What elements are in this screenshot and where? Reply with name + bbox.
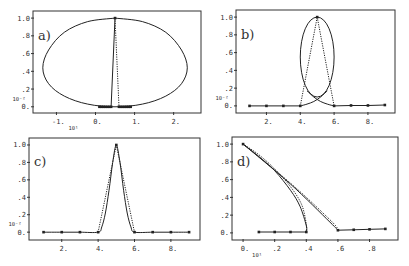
y-tick-label: .2 <box>18 211 26 219</box>
x-tick-label: 6. <box>332 118 340 126</box>
data-point-marker <box>350 104 353 107</box>
y-tick-label: .6 <box>18 176 26 184</box>
branch-dotted <box>243 144 307 232</box>
y-tick-label: .8 <box>225 31 233 39</box>
data-point-marker <box>115 144 118 147</box>
x-tick-label: 8. <box>169 245 177 253</box>
x-tick-label: 0. <box>93 118 101 126</box>
x-tick-label: 0. <box>241 245 249 253</box>
y-tick-label: .2 <box>221 212 229 220</box>
y-tick-label: .8 <box>22 32 30 40</box>
y-tick-label: .4 <box>225 67 233 75</box>
y-tick-label: 1.0 <box>13 141 26 149</box>
x-tick-label: .4 <box>304 245 312 253</box>
data-point-marker <box>282 105 285 108</box>
y-tick-label: .2 <box>225 85 233 93</box>
panel-label: b) <box>241 27 254 42</box>
data-point-marker <box>289 231 292 234</box>
y-tick-label: 0. <box>22 103 30 111</box>
y-tick-label: 1.0 <box>220 14 233 22</box>
x-tick-label: .8 <box>367 245 375 253</box>
data-point-marker <box>188 231 191 234</box>
x-tick-label: 4. <box>96 245 104 253</box>
x-tick-label: 6. <box>132 245 140 253</box>
data-point-marker <box>352 228 355 231</box>
dotted-line <box>115 18 119 107</box>
y-tick-label: 1.0 <box>17 15 30 23</box>
data-point-marker <box>305 231 308 234</box>
data-point-marker <box>170 231 173 234</box>
x-scale-label: 10¹ <box>252 252 262 258</box>
x-tick-label: .2 <box>272 245 280 253</box>
panel-d: 0..2.4.6.81.00..2.4.6.810¹d) <box>216 137 398 258</box>
x-tick-label: 2. <box>171 118 179 126</box>
data-point-marker <box>367 104 370 107</box>
y-tick-label: .4 <box>22 68 30 76</box>
panel-a: 0..2.4.6.81.0-1.0.1.2.10⁻²10¹a) <box>12 11 201 131</box>
axes-frame <box>232 137 398 240</box>
panel-label: a) <box>38 28 51 43</box>
data-point-marker <box>248 105 251 108</box>
data-point-marker <box>258 231 261 234</box>
panel-label: c) <box>34 154 46 169</box>
y-tick-label: .8 <box>18 159 26 167</box>
branch-dotted <box>243 144 338 230</box>
y-tick-label: 1.0 <box>216 141 229 149</box>
data-point-marker <box>273 231 276 234</box>
figure-canvas: 0..2.4.6.81.0-1.0.1.2.10⁻²10¹a)0..2.4.6.… <box>0 0 409 266</box>
panel-c: 0..2.4.6.81.02.4.6.8.10⁻²c) <box>8 138 200 253</box>
y-tick-label: 0. <box>225 102 233 110</box>
x-tick-label: 2. <box>60 245 68 253</box>
data-point-marker <box>79 231 82 234</box>
data-point-marker <box>333 105 336 108</box>
y-tick-label: .6 <box>221 176 229 184</box>
x-tick-label: 4. <box>298 118 306 126</box>
data-point-marker <box>265 105 268 108</box>
data-point-marker <box>42 231 45 234</box>
bottom-line <box>338 229 386 230</box>
panel-b: 0..2.4.6.81.02.4.6.8.10⁻²b) <box>215 10 395 126</box>
y-tick-label: .2 <box>22 86 30 94</box>
data-point-marker <box>133 231 136 234</box>
branch-solid <box>243 144 338 230</box>
baseline <box>334 105 385 106</box>
x-tick-label: 2. <box>264 118 272 126</box>
branch-solid <box>243 144 307 232</box>
data-point-marker <box>368 228 371 231</box>
y-tick-label: 0. <box>18 229 26 237</box>
y-scale-label: 10⁻² <box>215 95 228 101</box>
data-point-marker <box>337 229 340 232</box>
x-tick-label: -1. <box>52 118 65 126</box>
x-tick-label: 1. <box>132 118 140 126</box>
y-scale-label: 10⁻² <box>12 96 25 102</box>
data-point-marker <box>299 105 302 108</box>
data-point-marker <box>114 17 117 20</box>
data-point-marker <box>110 105 113 108</box>
y-tick-label: .4 <box>18 194 26 202</box>
y-scale-label: 10⁻² <box>8 221 21 227</box>
x-tick-label: 8. <box>366 118 374 126</box>
y-tick-label: .8 <box>221 158 229 166</box>
data-point-marker <box>316 16 319 19</box>
y-tick-label: 0. <box>221 229 229 237</box>
data-point-marker <box>384 104 387 107</box>
data-point-marker <box>97 231 100 234</box>
panel-label: d) <box>237 154 250 169</box>
ellipse-loop <box>300 17 334 97</box>
data-point-marker <box>151 231 154 234</box>
x-scale-label: 10¹ <box>68 125 78 131</box>
data-point-marker <box>384 228 387 231</box>
y-tick-label: .4 <box>221 194 229 202</box>
solid-curve <box>44 145 190 233</box>
x-tick-label: .6 <box>336 245 344 253</box>
y-tick-label: .6 <box>225 49 233 57</box>
crossing-curve <box>300 91 327 106</box>
y-tick-label: .6 <box>22 50 30 58</box>
data-point-marker <box>60 231 63 234</box>
closed-curve <box>43 18 188 107</box>
data-point-marker <box>242 143 245 146</box>
data-point-marker <box>129 105 132 108</box>
solid-line <box>111 18 115 107</box>
crossing-curve <box>307 91 334 106</box>
